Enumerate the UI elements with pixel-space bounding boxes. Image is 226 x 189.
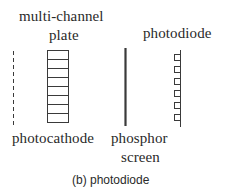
- photocathode-label: photocathode: [12, 131, 94, 146]
- photodiode-label: photodiode: [143, 26, 212, 41]
- phosphor-label-line1: phosphor: [111, 131, 168, 146]
- figure-caption: (b) photodiode: [72, 174, 149, 186]
- photodiode-array: [175, 50, 181, 127]
- mcp-label-line1: multi-channel: [19, 9, 104, 24]
- multi-channel-plate: [48, 51, 69, 123]
- phosphor-label-line2: screen: [121, 150, 160, 165]
- mcp-label-line2: plate: [49, 28, 79, 43]
- diagram-canvas: multi-channel plate photodiode photocath…: [0, 0, 226, 189]
